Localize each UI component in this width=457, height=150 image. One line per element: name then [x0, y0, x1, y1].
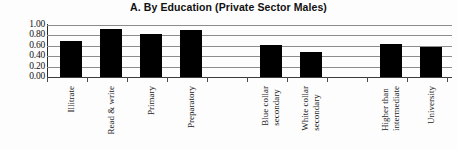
x-axis-label-text: Higher thanintermediate	[380, 86, 401, 131]
y-axis-tick-labels: 1.000.800.600.400.200.00	[0, 0, 45, 150]
y-axis-tick-label: 0.00	[1, 72, 45, 82]
bar[interactable]	[180, 30, 202, 77]
x-axis-label-text: Illitrate	[66, 86, 77, 113]
x-axis-label-line: Higher than	[380, 86, 391, 131]
x-axis-tick	[207, 77, 208, 82]
x-axis-tick	[447, 77, 448, 82]
y-axis-tick-label: 0.80	[1, 30, 45, 40]
x-axis-tick	[47, 77, 48, 82]
plot-area	[47, 25, 452, 77]
x-axis-tick	[327, 77, 328, 82]
x-axis-label-text: Read & write	[106, 86, 117, 135]
x-axis-tick	[407, 77, 408, 82]
x-axis-label-text: White collarsecondary	[300, 86, 321, 131]
bar[interactable]	[100, 29, 122, 77]
bar[interactable]	[380, 44, 402, 77]
x-axis-label-line: intermediate	[391, 86, 402, 131]
gridline	[47, 25, 452, 26]
x-axis-label-line: Primary	[146, 86, 157, 115]
x-axis-label-line: Preparatory	[186, 86, 197, 128]
x-axis-label-line: secondary	[271, 86, 282, 126]
y-axis-tick-label: 0.60	[1, 41, 45, 51]
x-axis-tick	[367, 77, 368, 82]
y-axis-tick-label: 1.00	[1, 20, 45, 30]
bar[interactable]	[140, 34, 162, 77]
chart-title: A. By Education (Private Sector Males)	[0, 1, 457, 13]
chart-figure: A. By Education (Private Sector Males) 1…	[0, 0, 457, 150]
bar[interactable]	[300, 52, 322, 77]
x-axis-label-text: University	[426, 86, 437, 124]
x-axis-label-line: Read & write	[106, 86, 117, 135]
x-axis-label-line: Illitrate	[66, 86, 77, 113]
x-axis-tick	[167, 77, 168, 82]
bar[interactable]	[260, 45, 282, 77]
y-axis-tick-label: 0.40	[1, 51, 45, 61]
x-axis-label-line: University	[426, 86, 437, 124]
x-axis-tick	[127, 77, 128, 82]
y-axis-tick-label: 0.20	[1, 62, 45, 72]
x-axis-label-line: White collar	[300, 86, 311, 131]
x-axis-label-text: Preparatory	[186, 86, 197, 128]
x-axis-label-text: Primary	[146, 86, 157, 115]
x-axis-label-text: Blue collarsecondary	[260, 86, 281, 126]
bar[interactable]	[60, 41, 82, 77]
x-axis-tick	[87, 77, 88, 82]
bar[interactable]	[420, 47, 442, 77]
x-axis-label-line: Blue collar	[260, 86, 271, 126]
x-axis-tick	[287, 77, 288, 82]
x-axis-tick	[247, 77, 248, 82]
x-axis-label-line: secondary	[311, 86, 322, 131]
x-axis-baseline	[47, 77, 452, 78]
